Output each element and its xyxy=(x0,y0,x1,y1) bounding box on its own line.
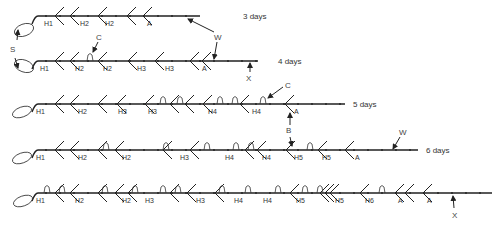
node-dot xyxy=(269,103,271,105)
node-dot xyxy=(87,192,89,194)
flower-bud-icon xyxy=(217,97,223,105)
node-label: H4 xyxy=(234,197,243,204)
flower-bud-icon xyxy=(245,186,251,194)
node-label: H2 xyxy=(122,154,131,161)
node-dot xyxy=(171,60,173,62)
node-label: H4 xyxy=(225,154,234,161)
node-dot xyxy=(381,192,383,194)
node-dot xyxy=(59,149,61,151)
stem-axis xyxy=(32,193,492,201)
node-dot xyxy=(227,103,229,105)
node-dot xyxy=(143,60,145,62)
node-dot xyxy=(297,103,299,105)
flower-bud-icon xyxy=(103,143,109,151)
stage-row-r4: H1H2H2H3H3A4 days xyxy=(32,52,302,72)
node-dot xyxy=(213,149,215,151)
node-dot xyxy=(45,15,47,17)
node-label: H5 xyxy=(322,154,331,161)
node-dot xyxy=(101,103,103,105)
node-dot xyxy=(129,103,131,105)
label-s: S xyxy=(10,45,15,54)
node-label: H2 xyxy=(75,65,84,72)
node-dot xyxy=(283,192,285,194)
flower-bud-icon xyxy=(379,186,385,194)
flower-bud-icon xyxy=(177,97,183,105)
node-dot xyxy=(297,192,299,194)
node-label: A xyxy=(355,154,360,161)
node-dot xyxy=(241,60,243,62)
node-dot xyxy=(143,149,145,151)
node-label: H1 xyxy=(36,154,45,161)
node-label: H1 xyxy=(36,197,45,204)
node-dot xyxy=(339,149,341,151)
node-dot xyxy=(409,149,411,151)
label-b: B xyxy=(286,126,291,135)
node-dot xyxy=(255,103,257,105)
node-dot xyxy=(129,15,131,17)
node-dot xyxy=(367,149,369,151)
node-dot xyxy=(213,103,215,105)
seed-loop-icon xyxy=(11,104,33,120)
node-dot xyxy=(171,103,173,105)
flower-bud-icon xyxy=(160,186,166,194)
seed-loop-icon xyxy=(11,150,33,166)
node-label: H1 xyxy=(44,20,53,27)
node-dot xyxy=(73,149,75,151)
label-c2: C xyxy=(285,81,291,90)
node-dot xyxy=(325,149,327,151)
node-dot xyxy=(45,192,47,194)
node-dot xyxy=(171,149,173,151)
arrow-w1-down xyxy=(214,42,217,59)
node-label: A xyxy=(294,108,299,115)
node-label: H1 xyxy=(36,108,45,115)
node-label: A xyxy=(398,197,403,204)
node-label: H1 xyxy=(40,65,49,72)
node-dot xyxy=(157,192,159,194)
day-label: 6 days xyxy=(426,146,450,155)
node-dot xyxy=(353,192,355,194)
node-label: H3 xyxy=(180,154,189,161)
node-dot xyxy=(185,15,187,17)
day-label: 5 days xyxy=(353,100,377,109)
flower-bud-icon xyxy=(233,143,239,151)
node-dot xyxy=(73,15,75,17)
node-label: H3 xyxy=(137,65,146,72)
node-dot xyxy=(199,149,201,151)
arrow-s-up xyxy=(17,30,18,40)
flower-bud-icon xyxy=(160,97,166,105)
node-dot xyxy=(199,60,201,62)
arrow-w1-up xyxy=(188,19,214,32)
plant-development-diagram: H1H2H2A3 daysH1H2H2H3H3A4 daysH1H2H3H3H4… xyxy=(0,0,504,227)
node-dot xyxy=(143,192,145,194)
label-c1: C xyxy=(96,33,102,42)
node-label: H2 xyxy=(78,154,87,161)
node-dot xyxy=(297,149,299,151)
flower-bud-icon xyxy=(317,186,323,194)
node-dot xyxy=(171,192,173,194)
node-dot xyxy=(241,149,243,151)
node-dot xyxy=(129,149,131,151)
node-dot xyxy=(45,60,47,62)
diagram-canvas: H1H2H2A3 daysH1H2H2H3H3A4 daysH1H2H3H3H4… xyxy=(0,0,504,227)
node-label: H4 xyxy=(252,108,261,115)
seed-loop-icon xyxy=(12,193,34,209)
node-dot xyxy=(241,103,243,105)
node-dot xyxy=(269,149,271,151)
node-dot xyxy=(157,60,159,62)
node-label: H5 xyxy=(294,154,303,161)
node-label: H3 xyxy=(196,197,205,204)
node-dot xyxy=(311,192,313,194)
flower-bud-icon xyxy=(260,97,266,105)
flower-bud-icon xyxy=(302,186,308,194)
day-label: 3 days xyxy=(243,12,267,21)
node-dot xyxy=(227,149,229,151)
stage-row-r3: H1H2H2A3 days xyxy=(32,7,267,27)
node-dot xyxy=(101,149,103,151)
node-label: H4 xyxy=(208,108,217,115)
node-dot xyxy=(87,149,89,151)
flower-bud-icon xyxy=(87,54,93,62)
arrow-c2 xyxy=(268,87,283,98)
node-label: H3 xyxy=(148,108,157,115)
arrow-w2 xyxy=(393,137,400,149)
node-label: A xyxy=(147,20,152,27)
